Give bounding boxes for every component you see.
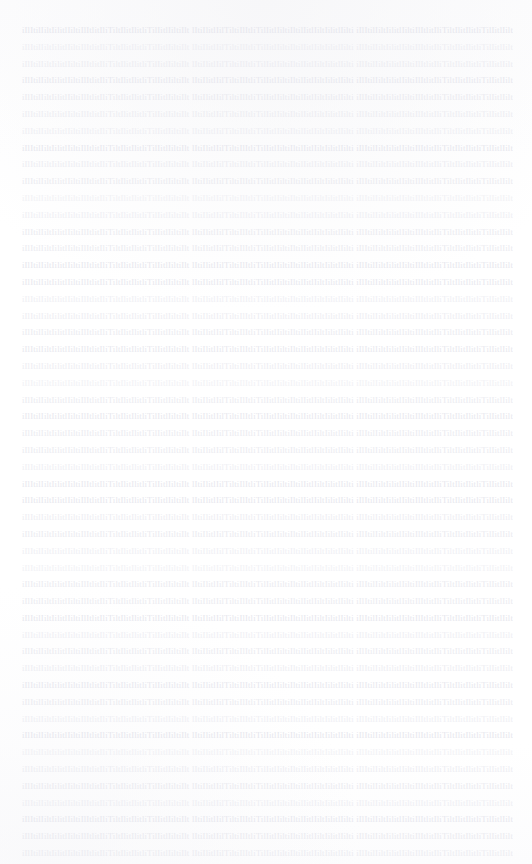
text-line: iIlItilIiltIilitlIiltiIlItlitIliTiltIlit… — [22, 694, 513, 711]
text-line: iIlItilIiltIilitlIiltiIlItlitIliTiltIlit… — [22, 156, 513, 173]
text-line: iIlItilIiltIilitlIiltiIlItlitIliTiltIlit… — [22, 744, 513, 761]
text-line: iIlItilIiltIilitlIiltiIlItlitIliTiltIlit… — [22, 828, 513, 845]
text-line: iIlItilIiltIilitlIiltiIlItlitIliTiltIlit… — [22, 308, 513, 325]
text-line: iIlItilIiltIilitlIiltiIlItlitIliTiltIlit… — [22, 610, 513, 627]
text-line: iIlItilIiltIilitlIiltiIlItlitIliTiltIlit… — [22, 727, 513, 744]
text-line: iIlItilIiltIilitlIiltiIlItlitIliTiltIlit… — [22, 509, 513, 526]
text-line: iIlItilIiltIilitlIiltiIlItlitIliTiltIlit… — [22, 560, 513, 577]
text-line: iIlItilIiltIilitlIiltiIlItlitIliTiltIlit… — [22, 274, 513, 291]
text-line: iIlItilIiltIilitlIiltiIlItlitIliTiltIlit… — [22, 442, 513, 459]
text-line: iIlItilIiltIilitlIiltiIlItlitIliTiltIlit… — [22, 476, 513, 493]
text-line: iIlItilIiltIilitlIiltiIlItlitIliTiltIlit… — [22, 106, 513, 123]
text-line: iIlItilIiltIilitlIiltiIlItlitIliTiltIlit… — [22, 324, 513, 341]
text-line: iIlItilIiltIilitlIiltiIlItlitIliTiltIlit… — [22, 358, 513, 375]
text-line: iIlItilIiltIilitlIiltiIlItlitIliTiltIlit… — [22, 408, 513, 425]
text-line: iIlItilIiltIilitlIiltiIlItlitIliTiltIlit… — [22, 459, 513, 476]
text-line: iIlItilIiltIilitlIiltiIlItlitIliTiltIlit… — [22, 224, 513, 241]
text-line: iIlItilIiltIilitlIiltiIlItlitIliTiltIlit… — [22, 492, 513, 509]
text-line: iIlItilIiltIilitlIiltiIlItlitIliTiltIlit… — [22, 526, 513, 543]
text-line: iIlItilIiltIilitlIiltiIlItlitIliTiltIlit… — [22, 173, 513, 190]
document-page: iIlItilIiltIilitlIiltiIlItlitIliTiltIlit… — [0, 0, 532, 864]
text-line: iIlItilIiltIilitlIiltiIlItlitIliTiltIlit… — [22, 543, 513, 560]
text-line: iIlItilIiltIilitlIiltiIlItlitIliTiltIlit… — [22, 72, 513, 89]
text-line: iIlItilIiltIilitlIiltiIlItlitIliTiltIlit… — [22, 795, 513, 812]
text-line: iIlItilIiltIilitlIiltiIlItlitIliTiltIlit… — [22, 341, 513, 358]
text-line: iIlItilIiltIilitlIiltiIlItlitIliTiltIlit… — [22, 761, 513, 778]
text-line: iIlItilIiltIilitlIiltiIlItlitIliTiltIlit… — [22, 123, 513, 140]
text-line: iIlItilIiltIilitlIiltiIlItlitIliTiltIlit… — [22, 593, 513, 610]
text-line: iIlItilIiltIilitlIiltiIlItlitIliTiltIlit… — [22, 190, 513, 207]
text-line: iIlItilIiltIilitlIiltiIlItlitIliTiltIlit… — [22, 576, 513, 593]
text-line: iIlItilIiltIilitlIiltiIlItlitIliTiltIlit… — [22, 39, 513, 56]
text-line: iIlItilIiltIilitlIiltiIlItlitIliTiltIlit… — [22, 375, 513, 392]
text-line: iIlItilIiltIilitlIiltiIlItlitIliTiltIlit… — [22, 845, 513, 862]
text-line: iIlItilIiltIilitlIiltiIlItlitIliTiltIlit… — [22, 22, 513, 39]
text-line: iIlItilIiltIilitlIiltiIlItlitIliTiltIlit… — [22, 207, 513, 224]
text-line: iIlItilIiltIilitlIiltiIlItlitIliTiltIlit… — [22, 660, 513, 677]
text-line: iIlItilIiltIilitlIiltiIlItlitIliTiltIlit… — [22, 56, 513, 73]
text-line: iIlItilIiltIilitlIiltiIlItlitIliTiltIlit… — [22, 711, 513, 728]
text-line: iIlItilIiltIilitlIiltiIlItlitIliTiltIlit… — [22, 291, 513, 308]
text-line: iIlItilIiltIilitlIiltiIlItlitIliTiltIlit… — [22, 89, 513, 106]
text-line: iIlItilIiltIilitlIiltiIlItlitIliTiltIlit… — [22, 627, 513, 644]
text-line: iIlItilIiltIilitlIiltiIlItlitIliTiltIlit… — [22, 643, 513, 660]
text-line: iIlItilIiltIilitlIiltiIlItlitIliTiltIlit… — [22, 392, 513, 409]
text-line: iIlItilIiltIilitlIiltiIlItlitIliTiltIlit… — [22, 778, 513, 795]
text-line: iIlItilIiltIilitlIiltiIlItlitIliTiltIlit… — [22, 811, 513, 828]
text-line: iIlItilIiltIilitlIiltiIlItlitIliTiltIlit… — [22, 140, 513, 157]
text-line: iIlItilIiltIilitlIiltiIlItlitIliTiltIlit… — [22, 240, 513, 257]
text-line: iIlItilIiltIilitlIiltiIlItlitIliTiltIlit… — [22, 677, 513, 694]
body-text-block: iIlItilIiltIilitlIiltiIlItlitIliTiltIlit… — [22, 22, 513, 864]
text-line: iIlItilIiltIilitlIiltiIlItlitIliTiltIlit… — [22, 257, 513, 274]
text-line: iIlItilIiltIilitlIiltiIlItlitIliTiltIlit… — [22, 425, 513, 442]
